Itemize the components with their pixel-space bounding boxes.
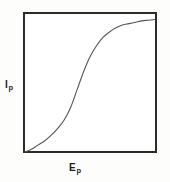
plot-frame [23, 12, 157, 153]
y-axis-label: Ip [5, 80, 13, 90]
x-axis-symbol: E [69, 162, 76, 173]
plate-characteristic-figure: Ip Ep [0, 0, 170, 182]
x-axis-label: Ep [69, 163, 81, 173]
x-axis-subscript: p [76, 166, 81, 175]
y-axis-subscript: p [8, 83, 13, 92]
